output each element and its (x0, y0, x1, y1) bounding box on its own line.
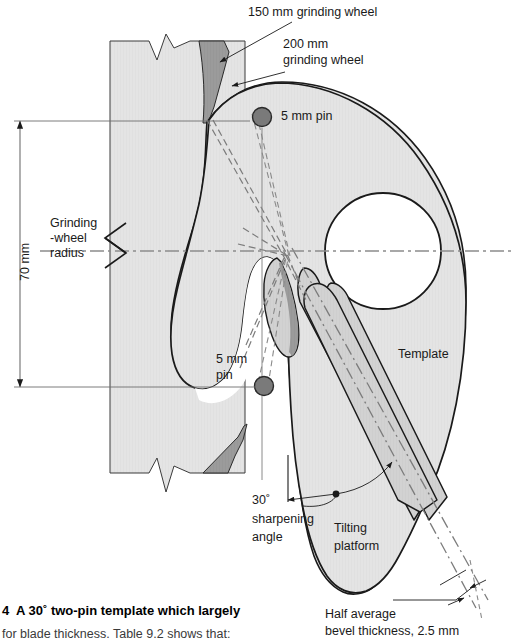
label-angle-line2: sharpening (252, 512, 314, 527)
label-150mm-grinding-wheel: 150 mm grinding wheel (248, 5, 377, 20)
technical-diagram: 150 mm grinding wheel 200 mm grinding wh… (0, 0, 515, 639)
bevel-tick-marks (470, 560, 482, 620)
label-pin-bottom-line1: 5 mm (216, 352, 247, 367)
label-grinding-wheel-radius-line2: -wheel (50, 231, 87, 246)
label-angle-line3: angle (252, 530, 283, 545)
figure-caption: 4 A 30˚ two-pin template which largely (2, 603, 240, 618)
label-pin-bottom-line2: pin (216, 368, 233, 383)
pin-top (253, 108, 272, 127)
label-tilting-platform-line1: Tilting (334, 521, 367, 536)
label-grinding-wheel-radius-line3: radius (50, 246, 84, 261)
label-pin-top: 5 mm pin (281, 109, 332, 124)
label-bevel-line2: bevel thickness, 2.5 mm (325, 624, 459, 639)
label-tilting-platform-line2: platform (334, 539, 379, 554)
label-200mm-grinding-wheel-line2: grinding wheel (283, 53, 364, 68)
label-dimension-70mm: 70 mm (18, 243, 32, 281)
figure-subcaption: for blade thickness. Table 9.2 shows tha… (2, 627, 230, 639)
label-bevel-line1: Half average (325, 607, 396, 622)
label-200mm-grinding-wheel-line1: 200 mm (283, 37, 328, 52)
label-template: Template (398, 347, 449, 362)
label-angle-line1: 30˚ (252, 493, 270, 508)
pin-bottom (255, 377, 274, 396)
label-grinding-wheel-radius-line1: Grinding (50, 216, 97, 231)
